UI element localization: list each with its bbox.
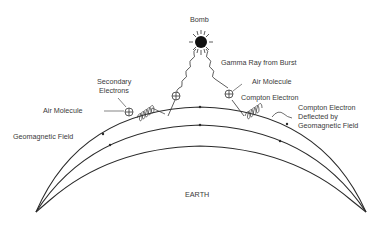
air-molecule-top-left-icon <box>172 92 180 100</box>
air-molecule-left-icon <box>125 108 133 116</box>
label-compton-deflected-2: Deflected by <box>298 113 338 121</box>
label-compton-deflected-3: Geomagnetic Field <box>298 122 358 130</box>
spiral-right <box>245 104 262 119</box>
diagram-canvas: Bomb Gamma Ray from Burst Air Molecule C… <box>0 0 382 225</box>
spiral-left <box>137 106 165 121</box>
air-molecule-top-right-icon <box>225 90 233 98</box>
label-secondary-2: Electrons <box>99 87 129 95</box>
bomb-icon <box>189 30 213 55</box>
label-bomb: Bomb <box>190 16 209 24</box>
label-compton-electron: Compton Electron <box>241 94 299 102</box>
label-gamma-ray: Gamma Ray from Burst <box>221 59 296 67</box>
gamma-ray-right <box>206 49 228 88</box>
label-air-molecule-right: Air Molecule <box>252 78 292 86</box>
label-earth: EARTH <box>185 191 209 199</box>
gamma-ray-left <box>174 49 196 97</box>
label-air-molecule-left: Air Molecule <box>43 107 83 115</box>
label-compton-deflected-1: Compton Electron <box>298 104 356 112</box>
label-secondary-1: Secondary <box>97 78 131 86</box>
label-geomagnetic-field: Geomagnetic Field <box>13 133 73 141</box>
deflected-leader <box>272 112 292 118</box>
